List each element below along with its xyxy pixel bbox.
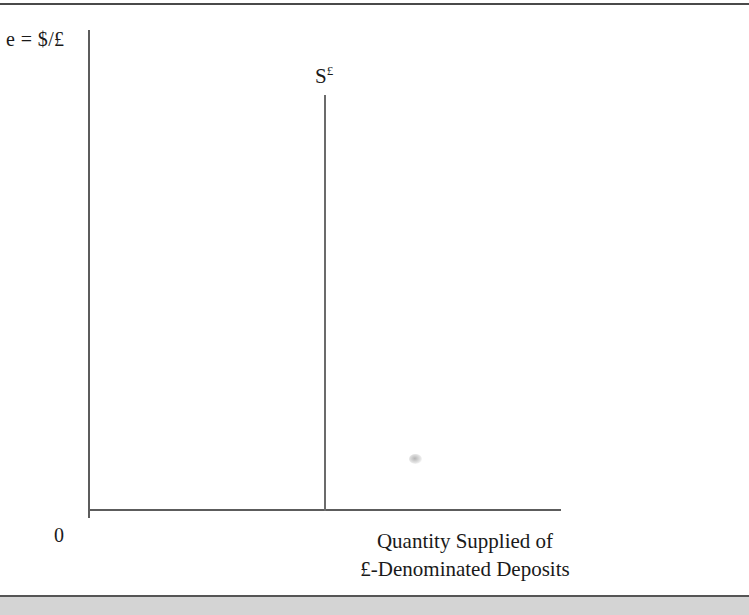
scan-smudge-artifact (409, 454, 422, 464)
x-axis-label-line-2: £-Denominated Deposits (300, 556, 630, 584)
supply-curve-label-superscript: £ (327, 63, 334, 78)
figure-page: e = $/£ S£ 0 Quantity Supplied of £-Deno… (0, 0, 749, 615)
page-top-rule (0, 3, 749, 5)
supply-curve-chart: e = $/£ S£ 0 Quantity Supplied of £-Deno… (0, 6, 749, 594)
supply-curve-label: S£ (315, 64, 333, 89)
page-bottom-band (0, 597, 749, 615)
origin-label: 0 (54, 524, 64, 547)
y-axis-line (88, 30, 90, 518)
y-axis-label: e = $/£ (6, 28, 65, 51)
supply-curve-label-base: S (315, 64, 327, 88)
x-axis-label-line-1: Quantity Supplied of (300, 528, 630, 556)
x-axis-label: Quantity Supplied of £-Denominated Depos… (300, 528, 630, 583)
supply-curve-line (324, 95, 326, 511)
